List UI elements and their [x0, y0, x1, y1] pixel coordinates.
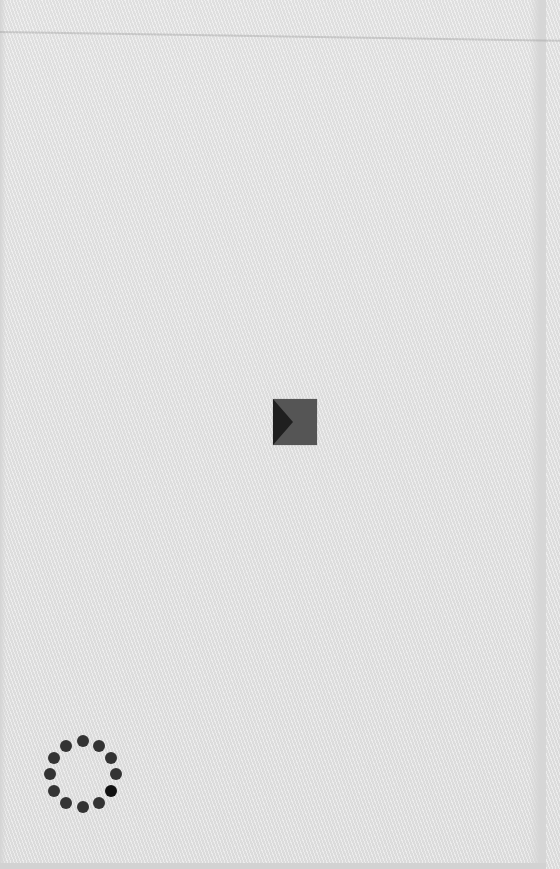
- spinner-dot: [77, 801, 89, 813]
- spinner-dot: [44, 768, 56, 780]
- fabric-seam-line: [0, 31, 560, 42]
- spinner-dot: [105, 752, 117, 764]
- loading-spinner-icon: [40, 735, 125, 820]
- bottom-edge-shade: [0, 863, 546, 869]
- spinner-dot: [48, 752, 60, 764]
- play-triangle-square-icon: [273, 399, 317, 445]
- app-logo: [273, 399, 317, 445]
- spinner-dot-active: [105, 785, 117, 797]
- spinner-dot: [93, 797, 105, 809]
- spinner-dot: [93, 740, 105, 752]
- right-edge-shade: [530, 0, 546, 869]
- spinner-dot: [48, 785, 60, 797]
- spinner-dot: [77, 735, 89, 747]
- spinner-dot: [60, 740, 72, 752]
- spinner-dot: [60, 797, 72, 809]
- left-edge-shade: [0, 0, 6, 869]
- spinner-dot: [110, 768, 122, 780]
